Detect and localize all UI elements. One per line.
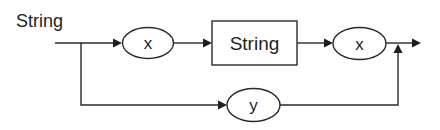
node-string-box: String	[212, 21, 297, 65]
arrowhead-icon	[113, 39, 122, 48]
diagram-title: String	[16, 11, 63, 31]
arrowhead-icon	[218, 101, 227, 110]
node-x2: x	[333, 28, 386, 60]
node-x1-label: x	[144, 34, 153, 53]
node-string-label: String	[230, 33, 280, 54]
node-y-label: y	[249, 96, 258, 115]
edge-x2-to-end	[386, 39, 421, 48]
edge-string-to-x2	[297, 39, 333, 48]
arrowhead-icon	[203, 39, 212, 48]
arrowhead-icon	[324, 39, 333, 48]
syntax-diagram: String x String x y	[0, 0, 440, 130]
node-y: y	[227, 89, 280, 122]
edge-start-to-x1	[55, 39, 122, 48]
arrowhead-icon	[412, 39, 421, 48]
node-x2-label: x	[355, 35, 364, 54]
edge-x1-to-string	[174, 39, 213, 48]
arrowhead-icon	[394, 44, 403, 53]
node-x1: x	[123, 28, 174, 59]
